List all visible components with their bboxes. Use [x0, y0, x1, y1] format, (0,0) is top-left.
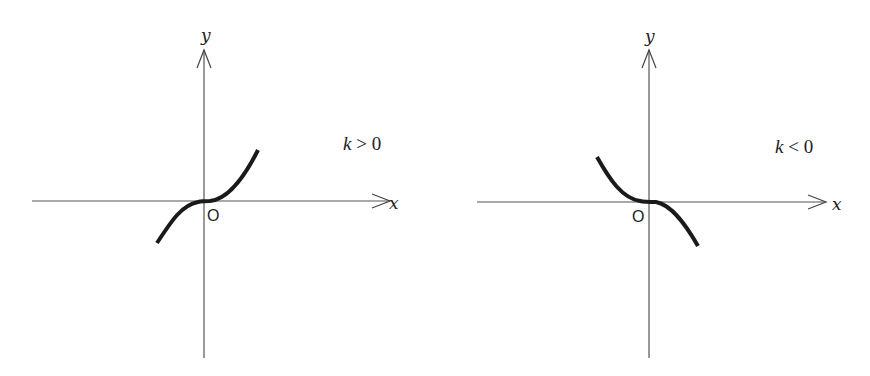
condition-label: k < 0: [775, 136, 813, 157]
origin-label: O: [632, 208, 644, 225]
condition-op-value: < 0: [783, 136, 813, 157]
y-axis-label: y: [200, 25, 211, 45]
y-axis-label: y: [644, 26, 655, 46]
cubic-curve-increasing: [157, 150, 258, 243]
condition-label: k > 0: [343, 133, 381, 154]
figure-canvas: y x O k > 0 y x O k < 0: [0, 0, 870, 376]
x-axis-label: x: [832, 194, 842, 214]
origin-label: O: [207, 207, 219, 224]
condition-op-value: > 0: [351, 133, 381, 154]
x-axis-label: x: [389, 193, 399, 213]
panel-right: y x O k < 0: [477, 26, 842, 358]
panel-left: y x O k > 0: [32, 25, 399, 358]
